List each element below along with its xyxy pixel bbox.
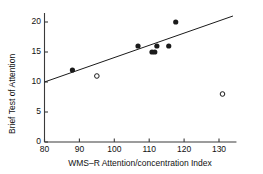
y-tick-label-15: 15 [32,46,41,56]
axis-ticks [45,22,220,142]
y-tick-label-10: 10 [32,76,41,86]
point-open-1 [220,92,225,97]
point-filled-3 [152,49,157,54]
x-tick-label-90: 90 [70,144,88,154]
point-filled-0 [70,67,75,72]
y-tick-label-5: 5 [36,106,41,116]
point-filled-4 [154,43,159,48]
scatter-plot-figure: 051015208090100110120130 Brief Test of A… [0,0,263,174]
point-filled-6 [173,19,178,24]
x-tick-label-80: 80 [36,144,54,154]
point-open-0 [95,74,100,79]
x-tick-label-130: 130 [210,144,228,154]
point-filled-5 [166,43,171,48]
x-tick-label-120: 120 [175,144,193,154]
axes [45,13,237,142]
y-axis-title: Brief Test of Attention [7,54,17,134]
x-tick-label-100: 100 [105,144,123,154]
y-tick-label-20: 20 [32,16,41,26]
x-tick-label-110: 110 [140,144,158,154]
data-points [70,19,225,96]
x-axis-title: WMS–R Attention/concentration Index [40,158,240,168]
point-filled-1 [135,43,140,48]
